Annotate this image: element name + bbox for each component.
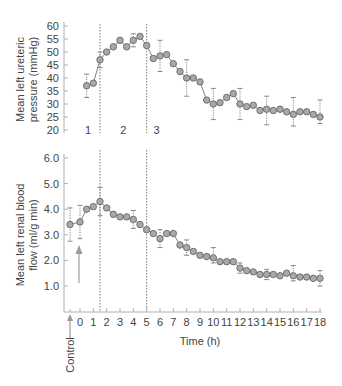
x-tick-label: 9 <box>197 316 203 328</box>
x-tick-label: 14 <box>261 316 273 328</box>
data-point <box>197 79 203 85</box>
data-line <box>70 202 320 279</box>
x-tick-label: 13 <box>247 316 259 328</box>
x-tick-label: 17 <box>301 316 313 328</box>
data-point <box>137 33 143 39</box>
y-axis-label-line: Mean left ureteric <box>14 37 26 122</box>
data-point <box>237 101 243 107</box>
control-label: Control <box>64 337 76 372</box>
treatment-arrow-icon <box>76 245 83 254</box>
data-point <box>243 103 249 109</box>
data-point <box>283 109 289 115</box>
control-arrow-icon <box>67 314 73 321</box>
y-tick-label: 25 <box>47 111 59 123</box>
data-point <box>137 221 143 227</box>
data-point <box>117 214 123 220</box>
data-point <box>230 90 236 96</box>
data-point <box>237 265 243 271</box>
data-point <box>230 258 236 264</box>
data-point <box>203 253 209 259</box>
x-tick-label: 18 <box>314 316 326 328</box>
data-point <box>163 51 169 57</box>
x-tick-label: 0 <box>77 316 83 328</box>
data-point <box>250 269 256 275</box>
data-point <box>83 83 89 89</box>
y-tick-label: 4.0 <box>44 203 59 215</box>
data-point <box>150 230 156 236</box>
y-tick-label: 35 <box>47 85 59 97</box>
y-axis-label: Mean left renal bloodflow (ml/g min) <box>14 184 39 287</box>
x-tick-label: 4 <box>130 316 136 328</box>
phase-label-3: 3 <box>154 124 160 136</box>
data-point <box>163 230 169 236</box>
figure: 202530354045505560Mean left uretericpres… <box>0 0 342 386</box>
data-point <box>97 57 103 63</box>
x-tick-label: 2 <box>104 316 110 328</box>
data-point <box>317 114 323 120</box>
data-point <box>243 267 249 273</box>
x-tick-label: 15 <box>274 316 286 328</box>
y-axis-label: Mean left uretericpressure (mmHg) <box>14 37 39 123</box>
data-point <box>157 235 163 241</box>
data-point <box>117 37 123 43</box>
phase-label-2: 2 <box>120 124 126 136</box>
data-point <box>123 44 129 50</box>
y-tick-label: 2.0 <box>44 254 59 266</box>
phase-label-1: 1 <box>85 124 91 136</box>
data-point <box>90 203 96 209</box>
y-tick-label: 50 <box>47 46 59 58</box>
data-point <box>150 55 156 61</box>
y-axis-label-line: flow (ml/g min) <box>27 199 39 271</box>
data-point <box>77 219 83 225</box>
data-point <box>103 205 109 211</box>
y-tick-label: 20 <box>47 124 59 136</box>
data-point <box>197 252 203 258</box>
x-tick-label: 11 <box>221 316 232 328</box>
data-point <box>317 275 323 281</box>
data-point <box>223 94 229 100</box>
data-point <box>130 216 136 222</box>
y-tick-label: 1.0 <box>44 280 59 292</box>
data-point <box>83 206 89 212</box>
data-point <box>67 221 73 227</box>
y-tick-label: 55 <box>47 33 59 45</box>
data-point <box>210 255 216 261</box>
x-tick-label: 12 <box>234 316 246 328</box>
data-point <box>303 274 309 280</box>
data-point <box>250 102 256 108</box>
data-point <box>263 106 269 112</box>
data-point <box>297 109 303 115</box>
x-tick-label: 10 <box>207 316 219 328</box>
data-point <box>210 101 216 107</box>
y-tick-label: 60 <box>47 20 59 32</box>
data-point <box>270 271 276 277</box>
x-tick-label: 6 <box>157 316 163 328</box>
x-axis-label: Time (h) <box>180 335 221 347</box>
data-point <box>97 198 103 204</box>
data-point <box>123 214 129 220</box>
data-point <box>110 44 116 50</box>
data-point <box>290 111 296 117</box>
data-point <box>177 242 183 248</box>
data-point <box>277 106 283 112</box>
y-axis-label-line: Mean left renal blood <box>14 184 26 287</box>
data-point <box>177 68 183 74</box>
x-tick-label: 5 <box>144 316 150 328</box>
y-tick-label: 5.0 <box>44 178 59 190</box>
data-point <box>130 37 136 43</box>
data-point <box>257 107 263 113</box>
data-point <box>183 244 189 250</box>
x-tick-label: 8 <box>184 316 190 328</box>
data-point <box>170 230 176 236</box>
data-point <box>103 49 109 55</box>
y-axis-label-line: pressure (mmHg) <box>27 37 39 123</box>
data-point <box>190 248 196 254</box>
data-point <box>270 107 276 113</box>
y-tick-label: 40 <box>47 72 59 84</box>
data-point <box>143 42 149 48</box>
data-point <box>170 61 176 67</box>
y-tick-label: 45 <box>47 59 59 71</box>
data-point <box>283 270 289 276</box>
data-point <box>143 226 149 232</box>
data-point <box>310 275 316 281</box>
